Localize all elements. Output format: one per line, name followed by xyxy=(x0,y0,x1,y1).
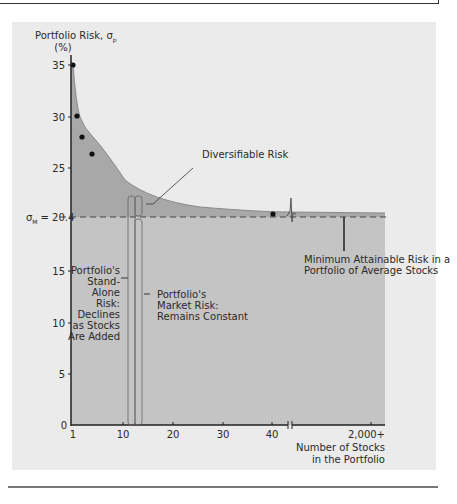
diversifiable-leader-line xyxy=(153,168,193,204)
y-tick-label: 35 xyxy=(52,60,65,71)
data-point xyxy=(74,113,79,118)
diversifiable-risk-label: Diversifiable Risk xyxy=(202,149,288,160)
data-point xyxy=(79,134,84,139)
x-tick-label: 20 xyxy=(167,429,180,440)
svg-text:Portfolio's: Portfolio's xyxy=(71,265,120,276)
x-axis-label-line1: Number of Stocks xyxy=(296,442,385,453)
svg-text:Portfolio's: Portfolio's xyxy=(157,289,206,300)
y-axis-unit: (%) xyxy=(54,42,71,53)
y-tick-label: 30 xyxy=(52,112,65,123)
y-axis-label: Portfolio Risk, σp xyxy=(35,30,117,44)
svg-text:Risk:: Risk: xyxy=(96,298,120,309)
svg-text:Are Added: Are Added xyxy=(68,331,120,342)
y-tick-label: 10 xyxy=(52,318,65,329)
svg-text:Minimum Attainable Risk in a: Minimum Attainable Risk in a xyxy=(304,254,450,265)
data-point xyxy=(89,151,94,156)
y-tick-label: 25 xyxy=(52,163,65,174)
data-point xyxy=(270,211,275,216)
x-tick-label: 30 xyxy=(217,429,230,440)
portfolio-risk-chart: 35 30 25 15 10 5 0 1 10 20 30 40 2,000+ … xyxy=(0,0,457,504)
svg-text:Portfolio of Average Stocks: Portfolio of Average Stocks xyxy=(304,265,438,276)
x-tick-label: 2,000+ xyxy=(348,429,385,440)
svg-text:Alone: Alone xyxy=(92,287,120,298)
y-tick-label: 0 xyxy=(61,420,67,431)
svg-text:Market Risk:: Market Risk: xyxy=(157,300,219,311)
x-tick-label: 10 xyxy=(117,429,130,440)
diversifiable-risk-area xyxy=(71,60,385,217)
min-attainable-risk-label: Minimum Attainable Risk in a Portfolio o… xyxy=(304,254,450,276)
x-tick-label: 40 xyxy=(266,429,279,440)
svg-text:as Stocks: as Stocks xyxy=(73,320,120,331)
y-tick-label: 15 xyxy=(52,266,65,277)
x-axis-label-line2: in the Portfolio xyxy=(312,454,385,465)
svg-text:Stand-: Stand- xyxy=(87,276,120,287)
market-risk-label: σM= 20.4 xyxy=(26,212,74,225)
y-tick-label: 5 xyxy=(59,369,65,380)
x-tick-label: 1 xyxy=(70,429,76,440)
svg-text:Remains Constant: Remains Constant xyxy=(157,311,248,322)
svg-text:Declines: Declines xyxy=(77,309,120,320)
